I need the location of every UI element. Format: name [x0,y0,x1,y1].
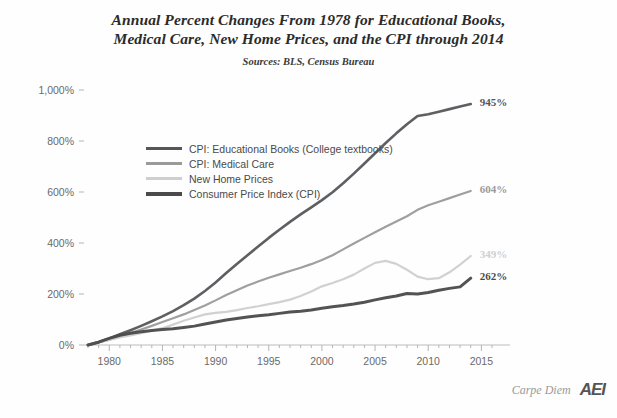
series-line-1 [88,191,471,345]
series-end-label-2: 349% [480,248,508,260]
y-axis-tick-label: 400% [47,237,74,249]
chart-footer: Carpe Diem AEI [512,380,605,400]
legend-item-3[interactable]: Consumer Price Index (CPI) [146,186,393,201]
series-end-label-0: 945% [480,96,508,108]
line-chart-plot: 0%200%400%600%800%1,000%1980198519901995… [0,0,617,418]
x-axis-tick-label: 2015 [470,355,494,367]
x-axis-tick-label: 1985 [151,355,175,367]
chart-legend: CPI: Educational Books (College textbook… [146,141,393,201]
legend-swatch-3 [146,192,182,196]
x-axis-tick-label: 2010 [417,355,441,367]
y-axis-tick-label: 800% [47,135,74,147]
y-axis-tick-label: 1,000% [38,84,74,96]
aei-logo: AEI [580,380,605,400]
legend-swatch-0 [146,147,182,150]
y-axis-tick-label: 200% [47,288,74,300]
legend-label-3: Consumer Price Index (CPI) [189,188,320,200]
x-axis-tick-label: 1995 [257,355,281,367]
carpe-diem-label: Carpe Diem [512,383,571,398]
x-axis-tick-label: 1990 [204,355,228,367]
y-axis-tick-label: 0% [59,339,74,351]
series-end-label-3: 262% [480,270,508,282]
legend-item-1[interactable]: CPI: Medical Care [146,156,393,171]
legend-item-2[interactable]: New Home Prices [146,171,393,186]
legend-swatch-2 [146,177,182,180]
x-axis-tick-label: 2005 [363,355,387,367]
legend-swatch-1 [146,162,182,165]
chart-container: Annual Percent Changes From 1978 for Edu… [0,0,617,418]
legend-label-2: New Home Prices [189,173,273,185]
legend-label-1: CPI: Medical Care [189,158,274,170]
y-axis-tick-label: 600% [47,186,74,198]
series-line-3 [88,278,471,345]
legend-item-0[interactable]: CPI: Educational Books (College textbook… [146,141,393,156]
legend-label-0: CPI: Educational Books (College textbook… [189,143,393,155]
series-end-label-1: 604% [480,183,508,195]
x-axis-tick-label: 1980 [98,355,122,367]
x-axis-tick-label: 2000 [310,355,334,367]
